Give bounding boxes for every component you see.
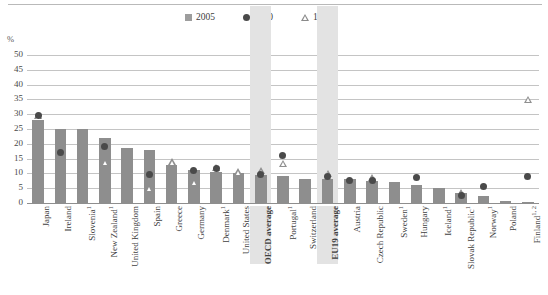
marker-2000[interactable] (324, 173, 331, 180)
y-axis-tick-label: 35 (0, 93, 23, 103)
x-axis-tick-label: Ireland (64, 206, 73, 231)
chart-column[interactable] (500, 55, 512, 203)
bar-2005[interactable] (500, 201, 512, 203)
marker-2000[interactable] (458, 192, 465, 199)
y-axis-tick-label: 25 (0, 123, 23, 133)
bar-2005[interactable] (255, 175, 267, 203)
y-axis-tick-label: 10 (0, 167, 23, 177)
chart-column[interactable] (411, 55, 423, 203)
bar-2005[interactable] (478, 196, 490, 203)
bar-2005[interactable] (32, 120, 44, 203)
footnote-marker: 1 (85, 206, 92, 209)
y-axis-tick-label: 50 (0, 49, 23, 59)
y-axis-tick-label: 0 (0, 197, 23, 207)
bar-2005[interactable] (210, 172, 222, 203)
chart-column[interactable] (188, 55, 200, 203)
chart-column[interactable] (233, 55, 245, 203)
x-axis-tick-label: Slovak Republic1 (465, 206, 476, 269)
marker-1995[interactable] (168, 158, 176, 165)
x-axis-tick-label: New Zealand1 (108, 206, 119, 257)
footnote-marker: 1 (397, 206, 404, 209)
chart-column[interactable] (210, 55, 222, 203)
bar-2005[interactable] (55, 129, 67, 203)
y-axis-tick-label: 15 (0, 153, 23, 163)
x-axis-tick-label: Spain (153, 206, 162, 227)
chart-column[interactable] (299, 55, 311, 203)
chart-column[interactable] (255, 55, 267, 203)
legend-label-2005: 2005 (196, 12, 215, 22)
x-axis-tick-label: Austria (353, 206, 362, 233)
marker-2000[interactable] (57, 149, 64, 156)
chart-column[interactable] (478, 55, 490, 203)
chart-column[interactable] (344, 55, 356, 203)
marker-1995[interactable] (190, 179, 198, 186)
x-axis-tick-label: Hungary (420, 206, 429, 238)
chart-column[interactable] (55, 55, 67, 203)
chart-column[interactable] (121, 55, 133, 203)
chart-column[interactable] (455, 55, 467, 203)
footnote-marker: 1 (486, 206, 493, 209)
x-axis-tick-label: Norway1 (487, 206, 498, 238)
x-axis-tick-label: Poland (509, 206, 518, 231)
y-axis-tick-label: 30 (0, 108, 23, 118)
chart-column[interactable] (166, 55, 178, 203)
marker-1995[interactable] (101, 158, 109, 165)
x-axis-tick-label: United Kingdom (131, 206, 140, 267)
x-axis-tick-label: Slovenia1 (86, 206, 97, 241)
x-axis-tick-label: Finland1, 2 (531, 206, 542, 243)
y-axis-tick-label: 5 (0, 182, 23, 192)
y-axis-tick-label: 20 (0, 138, 23, 148)
x-axis-tick-label: Sweden1 (398, 206, 409, 238)
marker-1995[interactable] (145, 185, 153, 192)
marker-2000[interactable] (35, 112, 42, 119)
chart-column[interactable] (77, 55, 89, 203)
chart-figure: 2005 2000 1995 % 50454035302520151050 Ja… (0, 0, 548, 295)
marker-1995[interactable] (279, 160, 287, 167)
footnote-marker: 1 (219, 206, 226, 209)
x-axis-labels: JapanIrelandSlovenia1New Zealand1United … (27, 206, 539, 294)
y-axis-unit-label: % (7, 34, 14, 44)
marker-1995[interactable] (234, 168, 242, 175)
chart-column[interactable] (144, 55, 156, 203)
marker-2000[interactable] (279, 152, 286, 159)
bar-2005[interactable] (389, 182, 401, 203)
chart-column[interactable] (366, 55, 378, 203)
bar-2005[interactable] (121, 148, 133, 203)
bar-2005[interactable] (277, 176, 289, 203)
bar-2005[interactable] (366, 181, 378, 203)
x-axis-tick-label: Czech Republic (376, 206, 385, 263)
marker-1995[interactable] (524, 96, 532, 103)
marker-2000[interactable] (524, 173, 531, 180)
chart-column[interactable] (433, 55, 445, 203)
triangle-marker-icon (301, 14, 309, 21)
footnote-marker: 1 (107, 206, 114, 209)
bar-2005[interactable] (411, 185, 423, 203)
footnote-marker: 1 (464, 206, 471, 209)
bar-2005[interactable] (77, 129, 89, 203)
bar-2005[interactable] (166, 165, 178, 203)
bar-2005[interactable] (233, 173, 245, 203)
x-axis-tick-label: Denmark1 (220, 206, 231, 243)
bar-2005[interactable] (322, 179, 334, 203)
marker-2000[interactable] (480, 183, 487, 190)
x-axis-tick-label: Iceland1 (442, 206, 453, 236)
x-axis-tick-label: Germany (197, 206, 206, 240)
chart-column[interactable] (277, 55, 289, 203)
bar-2005[interactable] (299, 179, 311, 203)
chart-column[interactable] (389, 55, 401, 203)
top-divider (8, 4, 542, 5)
y-axis-tick-label: 45 (0, 64, 23, 74)
bar-2005[interactable] (188, 170, 200, 203)
marker-2000[interactable] (369, 177, 376, 184)
chart-column[interactable] (522, 55, 534, 203)
chart-column[interactable] (99, 55, 111, 203)
chart-column[interactable] (322, 55, 334, 203)
x-axis-tick-label: Portugal1 (287, 206, 298, 240)
y-axis-tick-label: 40 (0, 79, 23, 89)
bar-2005[interactable] (433, 188, 445, 203)
chart-column[interactable] (32, 55, 44, 203)
circle-marker-icon (243, 14, 250, 21)
marker-2000[interactable] (413, 174, 420, 181)
bar-2005[interactable] (522, 202, 534, 203)
x-axis-tick-label: Greece (175, 206, 184, 231)
